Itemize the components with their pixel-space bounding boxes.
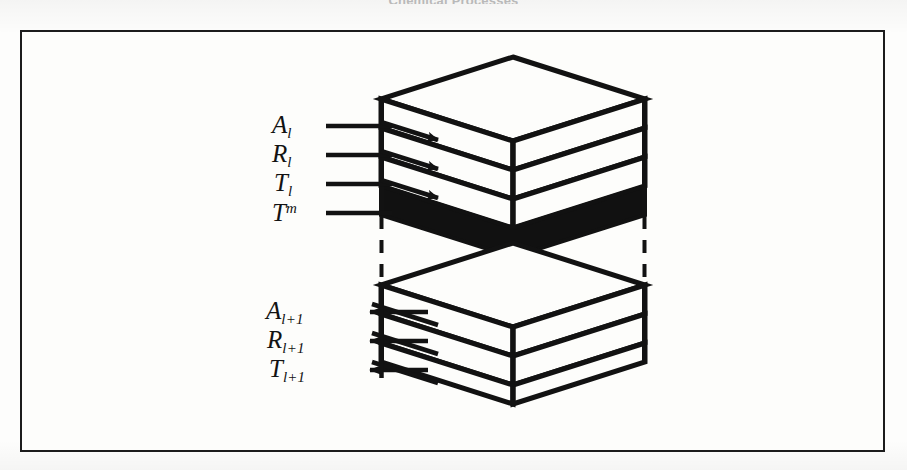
label-A-l-plus-1: Al+1 xyxy=(266,298,304,327)
upper-layer-stack xyxy=(381,57,645,257)
layered-block-diagram xyxy=(0,0,907,470)
label-R-l1-sub: l+1 xyxy=(282,340,304,356)
lower-layer-stack xyxy=(381,243,645,404)
label-R-l1-base: R xyxy=(267,326,282,353)
label-T-l1-base: T xyxy=(269,355,283,382)
label-T-m-base: T xyxy=(272,199,286,226)
label-A-l: Al xyxy=(272,112,292,141)
label-T-l1-sub: l+1 xyxy=(283,369,305,385)
lower-outflow-arrows xyxy=(370,300,438,383)
label-T-m-sup: m xyxy=(286,200,297,216)
label-T-l: Tl xyxy=(274,170,292,199)
label-A-l1-base: A xyxy=(266,297,281,324)
label-A-l1-sub: l+1 xyxy=(281,311,303,327)
label-A-l-sub: l xyxy=(287,125,291,141)
label-T-l-plus-1: Tl+1 xyxy=(269,356,305,385)
label-T-m: Tm xyxy=(272,200,297,225)
label-R-l-base: R xyxy=(272,140,287,167)
label-T-l-base: T xyxy=(274,169,288,196)
label-R-l-plus-1: Rl+1 xyxy=(267,327,305,356)
label-T-l-sub: l xyxy=(288,183,292,199)
label-R-l: Rl xyxy=(272,141,292,170)
label-A-l-base: A xyxy=(272,111,287,138)
label-R-l-sub: l xyxy=(287,154,291,170)
